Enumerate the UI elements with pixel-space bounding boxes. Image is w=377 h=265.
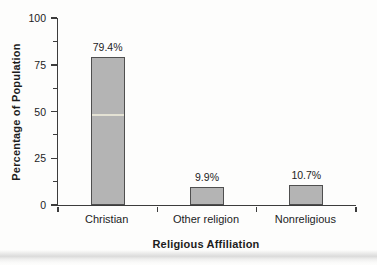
y-axis-major-tick [51, 111, 57, 113]
y-axis-major-tick [51, 64, 57, 66]
bar-value-label: 9.9% [175, 171, 239, 183]
category-label: Nonreligious [256, 213, 355, 226]
x-axis-boundary-tick [57, 207, 59, 212]
y-axis-minor-tick [53, 181, 57, 182]
y-axis-tick-label: 100 [10, 12, 46, 24]
y-axis-minor-tick [53, 134, 57, 135]
x-axis-boundary-tick [256, 207, 258, 212]
x-axis-category-labels: ChristianOther religionNonreligious [57, 213, 355, 227]
plot-area: 025507510079.4%9.9%10.7% [57, 18, 356, 206]
y-axis-minor-tick [53, 41, 57, 42]
y-axis-tick-label: 75 [10, 59, 46, 71]
bar-nonreligious [289, 185, 323, 205]
y-axis-minor-tick [53, 88, 57, 89]
y-axis-tick-label: 50 [10, 106, 46, 118]
category-label: Other religion [156, 213, 255, 226]
y-axis-major-tick [51, 158, 57, 160]
bar-value-label: 79.4% [76, 41, 140, 53]
y-axis-tick-label: 0 [10, 199, 46, 211]
bar-other-religion [190, 187, 224, 206]
scan-artifact-band [0, 250, 377, 265]
bar-value-label: 10.7% [274, 169, 338, 181]
x-axis-title: Religious Affiliation [57, 238, 355, 250]
category-label: Christian [57, 213, 156, 226]
x-axis-boundary-tick [157, 207, 159, 212]
y-axis-major-tick [51, 17, 57, 19]
y-axis-tick-label: 25 [10, 152, 46, 164]
scan-highlight-line [92, 114, 124, 116]
x-axis-boundary-tick [355, 207, 357, 212]
bar-christian [91, 57, 125, 205]
y-axis-major-tick [51, 204, 57, 206]
bar-chart-figure: Percentage of Population 025507510079.4%… [0, 0, 377, 265]
